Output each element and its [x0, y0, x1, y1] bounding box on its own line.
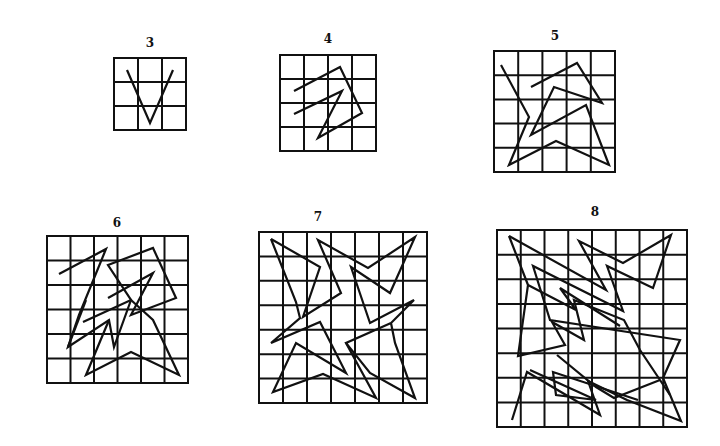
figure-canvas: 345678 [0, 0, 720, 446]
grid-panel-6: 6 [47, 216, 188, 383]
grid-panel-3: 3 [114, 36, 186, 130]
panel-label: 8 [591, 205, 599, 219]
zigzag-path [127, 70, 173, 123]
square-grid [259, 232, 427, 403]
grid-panel-4: 4 [280, 32, 376, 151]
square-grid [114, 58, 186, 130]
panel-label: 7 [314, 210, 322, 224]
grid-panel-8: 8 [497, 205, 687, 427]
grid-panel-7: 7 [259, 210, 427, 403]
square-grid [47, 236, 188, 383]
panel-label: 6 [113, 216, 121, 230]
grid-panel-5: 5 [494, 29, 615, 172]
square-grid [280, 55, 376, 151]
square-grid [494, 51, 615, 172]
panel-label: 4 [324, 32, 332, 46]
zigzag-path [271, 237, 415, 398]
panel-label: 3 [146, 36, 154, 50]
panel-label: 5 [551, 29, 559, 43]
